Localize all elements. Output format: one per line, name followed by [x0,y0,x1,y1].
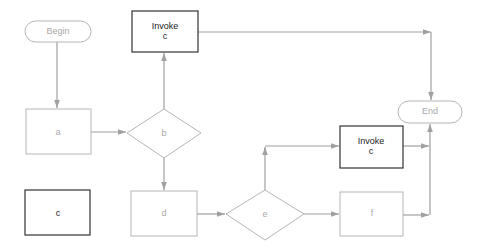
d-label: d [161,208,166,218]
node-c: c [25,190,90,235]
c-label: c [56,208,61,218]
e-label: e [262,209,267,219]
node-a: a [26,109,91,154]
node-end: End [398,101,462,123]
node-invoke-right: Invoke c [340,126,403,168]
b-label: b [161,128,166,138]
node-b: b [127,109,201,158]
invoke-top-label-line1: Invoke [152,21,179,31]
node-d: d [131,191,197,236]
invoke-top-label-line2: c [163,31,168,41]
node-begin: Begin [25,21,91,42]
node-e: e [226,190,304,240]
flowchart-diagram: Begin Invoke c a b End c d e Invoke c [0,0,488,252]
begin-label: Begin [46,26,69,36]
node-f: f [340,192,403,236]
invoke-right-label-line1: Invoke [358,136,385,146]
a-label: a [55,127,60,137]
invoke-right-label-line2: c [369,146,374,156]
node-invoke-top: Invoke c [132,11,198,52]
end-label: End [422,106,438,116]
edges [57,32,431,215]
